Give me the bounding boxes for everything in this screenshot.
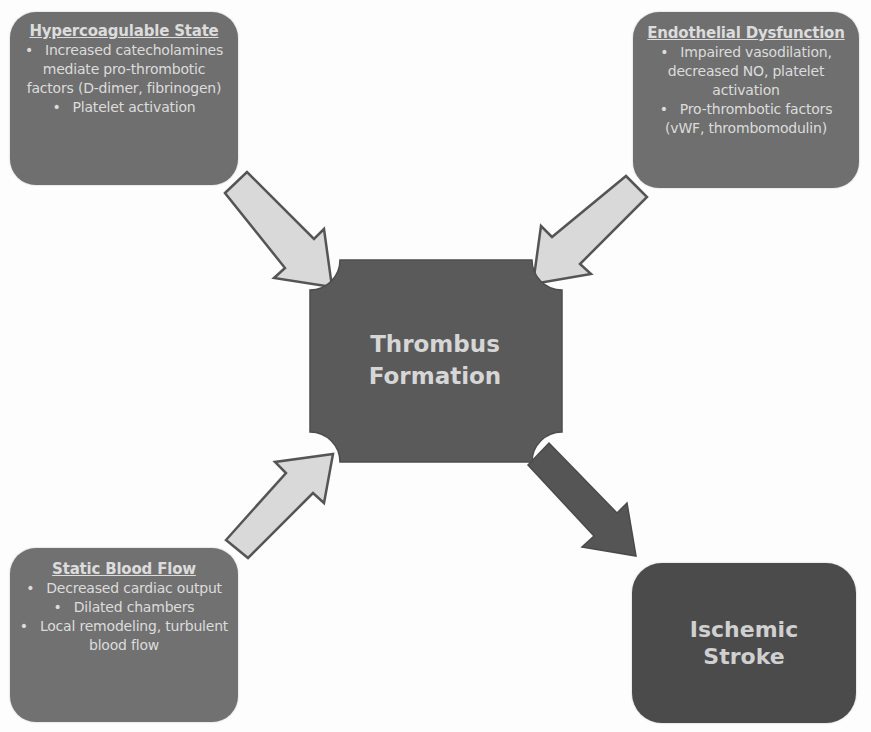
hypercoagulable-state-box: Hypercoagulable State Increased catechol… [10,12,238,185]
hypercoagulable-state-bullets: Increased catecholamines mediate pro-thr… [18,41,230,117]
static-blood-flow-bullets: Decreased cardiac output Dilated chamber… [18,579,230,655]
thrombus-formation-label: Thrombus Formation [310,260,560,460]
hypercoagulable-state-title: Hypercoagulable State [18,22,230,41]
bullet-item: Decreased cardiac output [18,579,230,598]
endothelial-dysfunction-box: Endothelial Dysfunction Impaired vasodil… [633,12,859,188]
static-blood-flow-title: Static Blood Flow [18,560,230,579]
bullet-item: Pro-thrombotic factors (vWF, thrombomodu… [639,100,853,138]
bullet-item: Increased catecholamines mediate pro-thr… [18,41,230,98]
bullet-item: Platelet activation [18,98,230,117]
bullet-item: Dilated chambers [18,598,230,617]
ischemic-stroke-box: Ischemic Stroke [632,563,856,723]
outcome-label-line2: Stroke [690,643,798,670]
bullet-item: Impaired vasodilation, decreased NO, pla… [639,43,853,100]
center-label-line2: Formation [369,360,501,392]
static-blood-flow-box: Static Blood Flow Decreased cardiac outp… [10,548,238,722]
bullet-item: Local remodeling, turbulent blood flow [18,617,230,655]
outcome-label-line1: Ischemic [690,616,798,643]
ischemic-stroke-label: Ischemic Stroke [690,616,798,670]
endothelial-dysfunction-bullets: Impaired vasodilation, decreased NO, pla… [639,43,853,138]
endothelial-dysfunction-title: Endothelial Dysfunction [639,24,853,43]
center-label-line1: Thrombus [370,328,500,360]
